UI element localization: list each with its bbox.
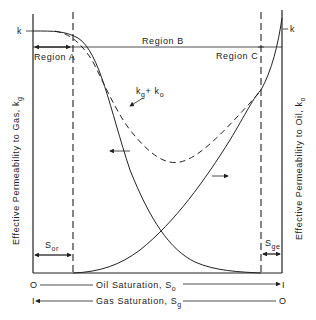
right-axis-label: Effective Permeability to Oil, ko [294,97,306,240]
oil-saturation-label: Oil Saturation, So [96,280,176,292]
relative-permeability-diagram: k k Region A Region B Region C kg+ ko So… [0,0,316,320]
sum-curve-label: kg+ ko [136,86,164,99]
k-left-label: k [17,26,22,36]
oil-sat-left: O [30,280,38,290]
k-right-label: k [290,24,295,34]
oil-sat-right: I [282,280,285,290]
kg-curve [33,31,261,273]
sor-label: Sor [45,240,59,252]
region-a-label: Region A [34,52,75,62]
region-c-label: Region C [216,51,258,61]
gas-saturation-label: Gas Saturation, Sg [96,296,182,309]
sge-label: Sge [265,238,281,251]
gas-sat-right: O [279,296,287,306]
left-axis-label: Effective Permeability to Gas, kg [11,96,24,245]
gas-sat-left: I [32,296,35,306]
region-b-label: Region B [142,36,184,46]
